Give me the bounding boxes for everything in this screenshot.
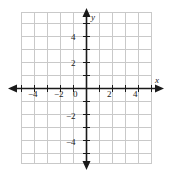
x-tick-label-pos4: 4 (133, 90, 138, 99)
x-tick-label-neg2: −2 (54, 90, 64, 99)
y-tick-label-pos2: 2 (71, 59, 76, 68)
coordinate-grid (0, 0, 172, 176)
y-tick-label-neg4: −4 (66, 138, 76, 147)
y-axis-label: y (91, 13, 95, 22)
y-tick-label-neg2: −2 (66, 112, 76, 121)
x-tick-label-pos2: 2 (107, 90, 112, 99)
x-tick-label-neg4: −4 (28, 90, 38, 99)
coordinate-plane-figure: −4 −2 0 2 4 4 2 −2 −4 y x (0, 0, 172, 176)
x-tick-label-zero: 0 (73, 90, 78, 99)
x-axis-label: x (155, 76, 159, 85)
y-tick-label-pos4: 4 (71, 33, 76, 42)
